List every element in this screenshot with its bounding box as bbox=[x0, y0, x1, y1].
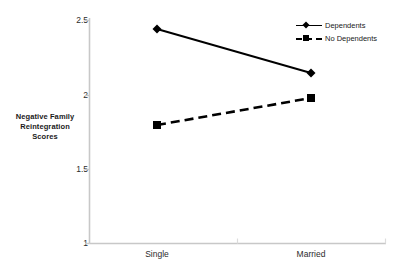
series-no-dependents-line bbox=[157, 98, 311, 125]
x-tick-label-single: Single bbox=[145, 249, 169, 259]
series-dependents-line bbox=[157, 29, 311, 73]
datapoint-no-dependents-married bbox=[307, 94, 315, 102]
legend-item-dependents: Dependents bbox=[296, 19, 377, 32]
diamond-marker-icon bbox=[302, 21, 309, 28]
datapoint-dependents-single bbox=[153, 25, 162, 34]
legend-key-no-dependents-icon bbox=[296, 33, 322, 44]
legend-label-dependents: Dependents bbox=[325, 21, 365, 30]
datapoint-no-dependents-single bbox=[153, 121, 161, 129]
x-tick-label-married: Married bbox=[297, 249, 326, 259]
legend-key-dependents-icon bbox=[296, 20, 322, 31]
square-marker-icon bbox=[303, 35, 309, 41]
datapoint-dependents-married bbox=[307, 69, 316, 78]
line-chart: Negative Family Reintegration Scores 1 1… bbox=[0, 0, 405, 272]
legend-item-no-dependents: No Dependents bbox=[296, 32, 377, 45]
legend-label-no-dependents: No Dependents bbox=[325, 34, 377, 43]
chart-legend: Dependents No Dependents bbox=[296, 19, 377, 45]
